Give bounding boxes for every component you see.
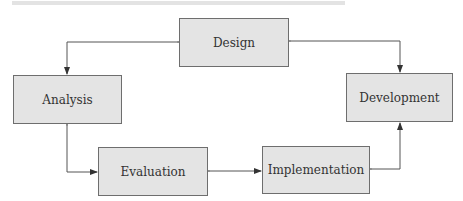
node-analysis: Analysis [13,75,122,124]
node-evaluation: Evaluation [98,147,208,196]
edge-design-development [290,41,400,72]
node-design: Design [179,18,289,67]
node-analysis-label: Analysis [42,93,92,107]
node-development-label: Development [359,91,439,105]
node-design-label: Design [213,36,255,50]
node-implementation-label: Implementation [268,163,365,177]
node-implementation: Implementation [262,146,370,194]
edge-design-analysis [67,42,178,74]
edge-analysis-evaluation [67,125,97,172]
edge-implementation-development [371,123,400,169]
node-development: Development [346,73,453,122]
node-evaluation-label: Evaluation [120,165,185,179]
